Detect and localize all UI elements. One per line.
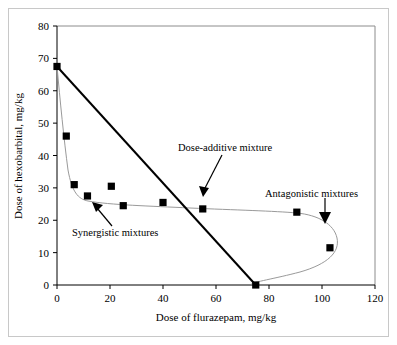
y-axis-title: Dose of hexobarbital, mg/kg bbox=[12, 93, 24, 219]
y-tick-label: 70 bbox=[38, 52, 50, 64]
y-tick-label: 50 bbox=[38, 117, 50, 129]
y-tick-label: 80 bbox=[38, 20, 50, 32]
synergistic-arrow bbox=[92, 202, 112, 226]
dose-additive-line bbox=[57, 66, 256, 285]
y-tick-label: 20 bbox=[38, 214, 50, 226]
annotation-antagonistic: Antagonistic mixtures bbox=[265, 188, 358, 199]
y-tick-label: 30 bbox=[38, 182, 50, 194]
x-tick-label: 120 bbox=[367, 292, 384, 304]
data-point-marker bbox=[326, 244, 333, 251]
data-point-marker bbox=[84, 192, 91, 199]
data-point-marker bbox=[108, 183, 115, 190]
isobologram-chart: 01020304050607080 020406080100120 bbox=[0, 0, 397, 345]
data-point-marker bbox=[53, 63, 60, 70]
data-point-marker bbox=[120, 202, 127, 209]
x-tick-label: 60 bbox=[211, 292, 223, 304]
data-point-marker bbox=[63, 132, 70, 139]
data-point-markers bbox=[53, 63, 333, 289]
y-tick-label: 60 bbox=[38, 85, 50, 97]
y-tick-label: 40 bbox=[38, 150, 50, 162]
x-tick-label: 80 bbox=[264, 292, 276, 304]
antagonistic-arrow bbox=[319, 198, 331, 224]
x-axis-title: Dose of flurazepam, mg/kg bbox=[156, 311, 277, 323]
x-axis-ticks: 020406080100120 bbox=[54, 285, 384, 304]
annotation-dose-additive: Dose-additive mixture bbox=[178, 142, 273, 153]
y-tick-label: 10 bbox=[38, 247, 50, 259]
y-axis-ticks: 01020304050607080 bbox=[38, 20, 57, 291]
data-point-marker bbox=[252, 281, 259, 288]
data-point-marker bbox=[71, 181, 78, 188]
x-tick-label: 20 bbox=[105, 292, 117, 304]
dose-additive-arrow bbox=[199, 155, 222, 197]
annotation-synergistic: Synergistic mixtures bbox=[72, 227, 158, 238]
figure-container: 01020304050607080 020406080100120 bbox=[0, 0, 397, 345]
x-tick-label: 100 bbox=[314, 292, 331, 304]
x-tick-label: 0 bbox=[54, 292, 60, 304]
data-point-marker bbox=[159, 199, 166, 206]
x-tick-label: 40 bbox=[158, 292, 170, 304]
y-tick-label: 0 bbox=[44, 279, 50, 291]
data-point-marker bbox=[293, 209, 300, 216]
experimental-isobole-curve bbox=[57, 66, 337, 285]
data-point-marker bbox=[199, 205, 206, 212]
